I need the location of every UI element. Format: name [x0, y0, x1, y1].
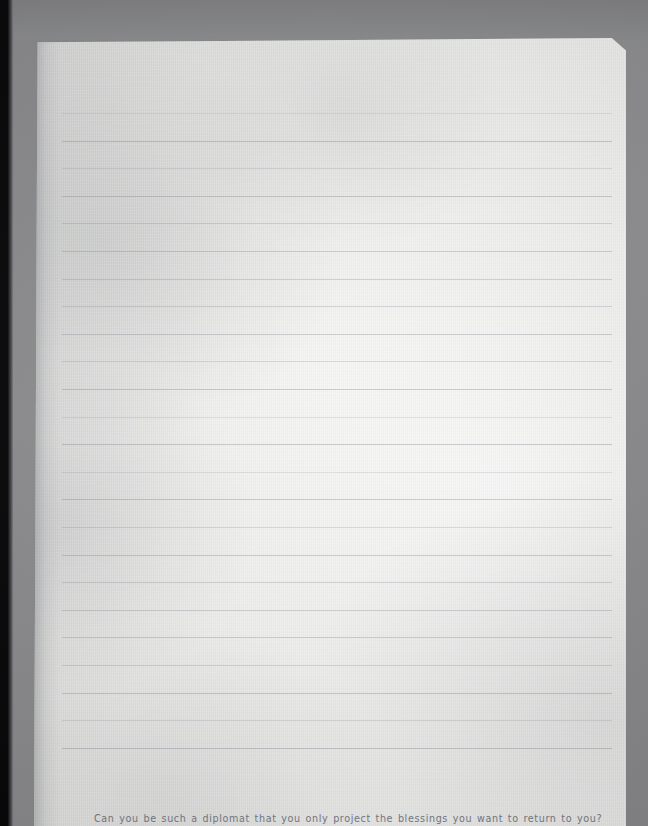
paper-left-margin-shadow [34, 38, 60, 826]
journal-prompt-text: Can you be such a diplomat that you only… [94, 813, 614, 824]
photo-backdrop-top-band [0, 0, 648, 40]
ruled-line [62, 417, 612, 418]
paper-shading-upper [34, 38, 626, 826]
ruled-line [62, 223, 612, 224]
ruled-line [62, 610, 612, 611]
left-dark-edge-taper [8, 0, 13, 826]
ruled-line [62, 693, 612, 694]
paper-shading-lower [34, 38, 626, 826]
ruled-line [62, 251, 612, 252]
ruled-line [62, 665, 612, 666]
ruled-line [62, 499, 612, 500]
ruled-line [62, 637, 612, 638]
paper-sheet: Can you be such a diplomat that you only… [34, 38, 626, 826]
scanned-page-photo: Can you be such a diplomat that you only… [0, 0, 648, 826]
ruled-line [62, 748, 612, 749]
ruled-lines-group [34, 38, 626, 826]
ruled-line [62, 582, 612, 583]
ruled-line [62, 444, 612, 445]
ruled-line [62, 279, 612, 280]
ruled-line [62, 168, 612, 169]
ruled-line [62, 720, 612, 721]
ruled-line [62, 361, 612, 362]
ruled-line [62, 389, 612, 390]
ruled-line [62, 472, 612, 473]
ruled-line [62, 141, 612, 142]
ruled-line [62, 527, 612, 528]
ruled-line [62, 196, 612, 197]
ruled-line [62, 334, 612, 335]
ruled-line [62, 306, 612, 307]
paper-grain-texture [34, 38, 626, 826]
ruled-line [62, 113, 612, 114]
ruled-line [62, 555, 612, 556]
